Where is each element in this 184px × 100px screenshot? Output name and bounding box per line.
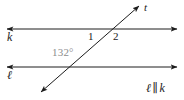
- parallel-statement-line-a: ℓ: [146, 81, 152, 95]
- angle-measure-132: 132°: [52, 47, 74, 58]
- line-label-k: k: [7, 31, 12, 43]
- angle-label-2: 2: [113, 31, 119, 42]
- parallel-symbol: ∥: [152, 81, 160, 95]
- parallel-statement-line-b: k: [160, 81, 166, 95]
- line-label-l: ℓ: [7, 69, 12, 81]
- geometry-figure: k ℓ t 1 2 132° ℓ∥k: [0, 0, 184, 100]
- angle-label-1: 1: [88, 31, 94, 42]
- parallel-statement: ℓ∥k: [146, 82, 165, 94]
- line-label-t: t: [144, 2, 147, 13]
